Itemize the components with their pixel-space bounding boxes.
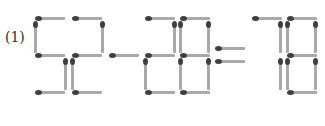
matchstick-head — [215, 59, 222, 64]
matchstick-head — [278, 58, 283, 65]
matchstick[interactable] — [33, 21, 38, 53]
matchstick-head — [109, 53, 116, 58]
matchstick[interactable] — [35, 16, 65, 21]
matchstick-head — [278, 21, 283, 28]
matchstick[interactable] — [100, 21, 105, 53]
matchstick[interactable] — [109, 53, 139, 58]
matchstick-head — [145, 90, 152, 95]
puzzle-number-label: (1) — [5, 29, 25, 45]
matchstick[interactable] — [206, 21, 211, 53]
matchstick[interactable] — [145, 16, 175, 21]
matchstick-head — [285, 58, 290, 65]
matchstick-head — [72, 16, 79, 21]
matchstick[interactable] — [313, 58, 318, 90]
matchstick-head — [180, 90, 187, 95]
matchstick-puzzle: (1) — [0, 0, 325, 126]
matchstick-head — [70, 58, 75, 65]
matchstick[interactable] — [70, 58, 75, 90]
matchstick[interactable] — [178, 58, 183, 90]
matchstick[interactable] — [72, 90, 102, 95]
matchstick[interactable] — [313, 21, 318, 53]
matchstick[interactable] — [145, 53, 175, 58]
matchstick-head — [215, 46, 222, 51]
matchstick[interactable] — [72, 53, 102, 58]
matchstick[interactable] — [72, 16, 102, 21]
matchstick-head — [100, 21, 105, 28]
matchstick-head — [178, 58, 183, 65]
matchstick[interactable] — [143, 58, 148, 90]
matchstick[interactable] — [215, 46, 245, 51]
matchstick[interactable] — [178, 21, 183, 53]
matchstick-head — [252, 16, 259, 21]
matchstick[interactable] — [35, 90, 65, 95]
matchstick[interactable] — [215, 59, 245, 64]
matchstick-head — [178, 21, 183, 28]
matchstick-head — [63, 58, 68, 65]
matchstick-head — [313, 21, 318, 28]
matchstick[interactable] — [180, 90, 210, 95]
matchstick-head — [143, 58, 148, 65]
matchstick-head — [72, 90, 79, 95]
matchstick[interactable] — [285, 58, 290, 90]
matchstick[interactable] — [145, 90, 175, 95]
matchstick[interactable] — [63, 58, 68, 90]
matchstick[interactable] — [285, 21, 290, 53]
matchstick[interactable] — [278, 21, 283, 53]
matchstick-head — [313, 58, 318, 65]
matchstick-head — [145, 16, 152, 21]
matchstick-head — [33, 21, 38, 28]
matchstick-head — [206, 21, 211, 28]
matchstick-head — [35, 90, 42, 95]
matchstick[interactable] — [206, 58, 211, 90]
matchstick[interactable] — [35, 53, 65, 58]
matchstick-head — [287, 90, 294, 95]
matchstick-head — [35, 53, 42, 58]
matchstick[interactable] — [172, 21, 177, 53]
matchstick-head — [172, 21, 177, 28]
matchstick[interactable] — [287, 90, 317, 95]
matchstick[interactable] — [278, 58, 283, 90]
matchstick-head — [285, 21, 290, 28]
matchstick-head — [206, 58, 211, 65]
